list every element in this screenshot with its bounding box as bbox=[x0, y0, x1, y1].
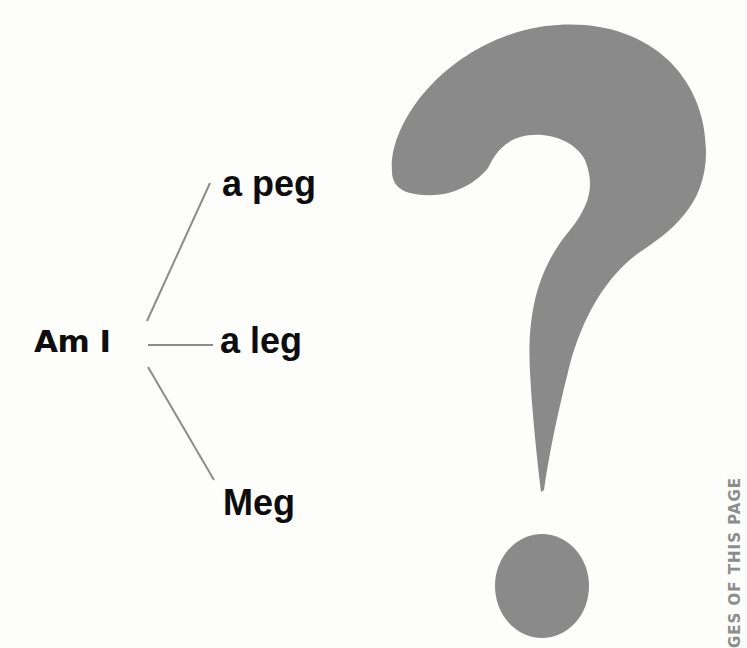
question-mark-dot bbox=[495, 534, 589, 638]
margin-text: GES OF THIS PAGE bbox=[726, 477, 744, 648]
question-mark-icon bbox=[0, 0, 747, 648]
question-mark-hook bbox=[392, 24, 706, 492]
